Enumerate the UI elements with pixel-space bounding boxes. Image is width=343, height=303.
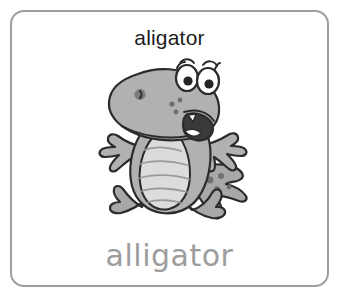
cartoon-alligator-icon: .sk { fill:#b1b1b1; stroke:#2b2b2b; stro… (84, 52, 264, 247)
illustration-container: .sk { fill:#b1b1b1; stroke:#2b2b2b; stro… (84, 52, 264, 247)
flashcard: aligator .sk { fill:#b1b1b1; stroke:#2b2… (10, 10, 329, 287)
prompt-word-text: aligator (12, 25, 327, 51)
eye-left (176, 65, 198, 91)
eye-right (197, 68, 219, 94)
answer-word-text: alligator (12, 237, 327, 275)
